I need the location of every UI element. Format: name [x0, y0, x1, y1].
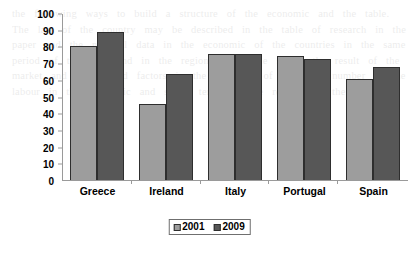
x-label-ireland: Ireland: [132, 185, 201, 197]
chart-legend: 2001 2009: [168, 219, 251, 235]
bar-ireland-2009: [166, 74, 193, 180]
bar-group-portugal: [269, 14, 338, 180]
y-tick-label: 50: [43, 92, 54, 103]
x-label-portugal: Portugal: [270, 185, 339, 197]
legend-swatch-2001-icon: [173, 224, 180, 231]
y-tick-label: 80: [43, 42, 54, 53]
x-tick-mark: [337, 180, 338, 184]
legend-label-2001: 2001: [182, 222, 204, 232]
y-tick-label: 0: [48, 176, 54, 187]
bar-greece-2001: [70, 46, 97, 180]
x-label-greece: Greece: [63, 185, 132, 197]
y-tick-label: 40: [43, 109, 54, 120]
bar-spain-2001: [346, 79, 373, 180]
bar-ireland-2001: [139, 104, 166, 180]
y-tick-label: 90: [43, 25, 54, 36]
bars-container: [63, 14, 407, 180]
x-axis-labels: Greece Ireland Italy Portugal Spain: [63, 185, 408, 197]
y-tick-label: 60: [43, 75, 54, 86]
bar-italy-2001: [208, 54, 235, 180]
y-tick-label: 30: [43, 125, 54, 136]
y-tick-label: 10: [43, 159, 54, 170]
bar-portugal-2009: [304, 59, 331, 180]
y-tick-label: 20: [43, 142, 54, 153]
legend-item-2001: 2001: [173, 222, 204, 232]
bar-portugal-2001: [277, 56, 304, 181]
bar-chart: 100 90 80 70 60 50 40 30 20 10 0: [0, 0, 419, 256]
legend-label-2009: 2009: [223, 222, 245, 232]
x-label-italy: Italy: [201, 185, 270, 197]
y-tick-label: 100: [37, 9, 54, 20]
bar-group-ireland: [132, 14, 201, 180]
bar-greece-2009: [97, 32, 124, 180]
legend-swatch-2009-icon: [214, 224, 221, 231]
bar-spain-2009: [373, 67, 400, 180]
x-tick-mark: [200, 180, 201, 184]
legend-item-2009: 2009: [214, 222, 245, 232]
y-tick-label: 70: [43, 59, 54, 70]
y-axis: 100 90 80 70 60 50 40 30 20 10 0: [33, 14, 58, 181]
bar-group-spain: [338, 14, 407, 180]
x-tick-mark: [131, 180, 132, 184]
bar-italy-2009: [235, 54, 262, 180]
plot-area: 100 90 80 70 60 50 40 30 20 10 0: [33, 14, 408, 181]
x-axis-line: [62, 180, 408, 181]
bar-group-italy: [201, 14, 270, 180]
x-tick-mark: [268, 180, 269, 184]
x-label-spain: Spain: [339, 185, 408, 197]
bar-group-greece: [63, 14, 132, 180]
